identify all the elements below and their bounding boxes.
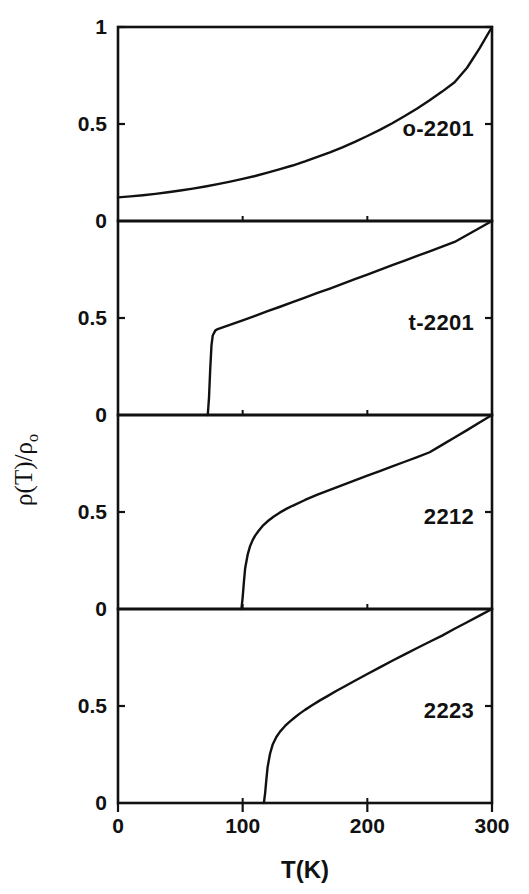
y-tick-label: 1 <box>95 15 107 38</box>
y-axis-title-subscript: o <box>24 434 41 442</box>
y-tick-label: 0 <box>95 791 107 814</box>
x-axis-group: 0100200300 <box>112 803 509 837</box>
panel-label-2212: 2212 <box>424 504 474 529</box>
y-tick-label: 0.5 <box>78 500 108 523</box>
x-axis-title: T(K) <box>281 856 329 883</box>
panel-label-2223: 2223 <box>424 698 474 723</box>
y-tick-label: 0.5 <box>78 306 108 329</box>
y-axis-title: ρ(T)/ρo <box>10 434 41 506</box>
x-tick-label: 100 <box>225 814 260 837</box>
panel-o-2201: 00.51o-2201 <box>78 15 492 232</box>
panel-label-t-2201: t-2201 <box>409 310 474 335</box>
figure-root: 00.51o-220100.5t-220100.5221200.52223 01… <box>0 0 529 894</box>
x-tick-label: 0 <box>112 814 124 837</box>
panel-t-2201: 00.5t-2201 <box>78 221 492 426</box>
x-tick-label: 200 <box>350 814 385 837</box>
y-tick-label: 0 <box>95 209 107 232</box>
curve-o-2201 <box>118 27 492 197</box>
y-tick-label: 0 <box>95 403 107 426</box>
resistivity-chart: 00.51o-220100.5t-220100.5221200.52223 01… <box>0 0 529 894</box>
y-tick-label: 0.5 <box>78 112 108 135</box>
y-tick-label: 0 <box>95 597 107 620</box>
y-axis-title-main: ρ(T)/ρ <box>10 442 38 506</box>
x-tick-label: 300 <box>474 814 509 837</box>
panel-label-o-2201: o-2201 <box>402 116 474 141</box>
panel-2212: 00.52212 <box>78 415 492 620</box>
svg-text:ρ(T)/ρo: ρ(T)/ρo <box>10 434 41 506</box>
panel-2223: 00.52223 <box>78 609 492 814</box>
y-tick-label: 0.5 <box>78 694 108 717</box>
panels-group: 00.51o-220100.5t-220100.5221200.52223 <box>78 15 492 814</box>
